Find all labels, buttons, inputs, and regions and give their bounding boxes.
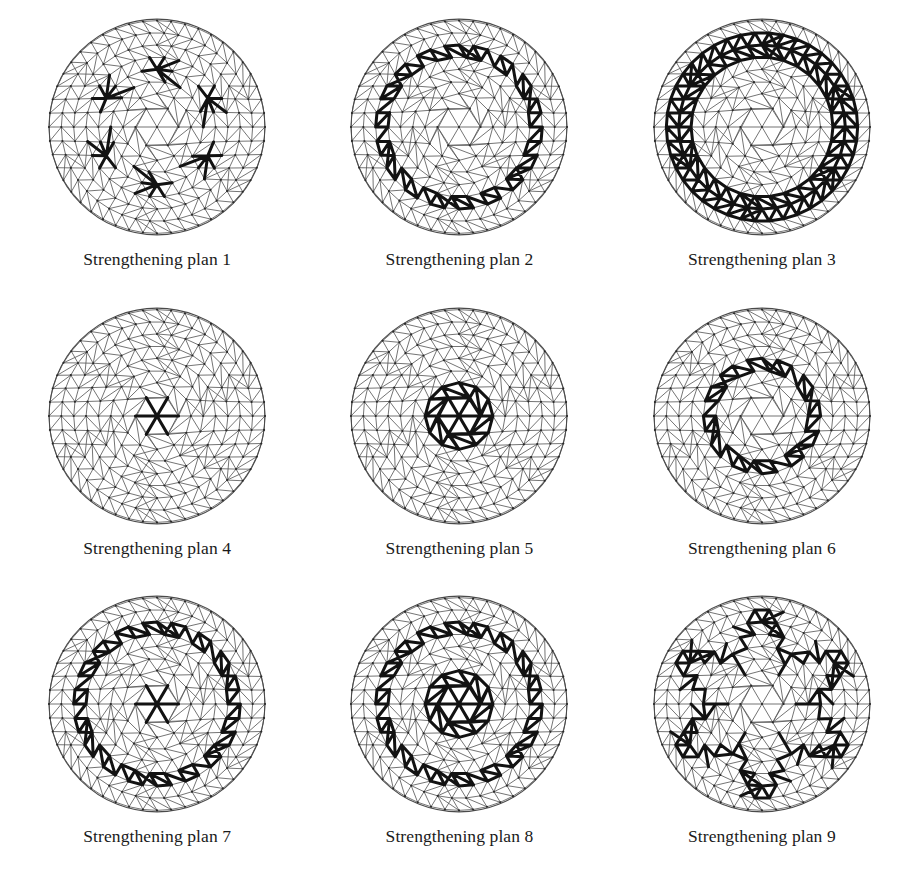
plan-diagram-5 [339, 297, 579, 535]
plan-diagram-2 [339, 8, 579, 246]
plan-diagram-9 [642, 585, 882, 823]
plan-diagram-6 [642, 297, 882, 535]
plan-caption-4: Strengthening plan 4 [83, 538, 231, 559]
plan-caption-3: Strengthening plan 3 [688, 249, 836, 270]
plan-caption-8: Strengthening plan 8 [386, 826, 534, 847]
plan-caption-5: Strengthening plan 5 [386, 538, 534, 559]
plan-panel-9: Strengthening plan 9 [611, 585, 913, 874]
strengthening-plans-figure: Strengthening plan 1 Strengthening plan … [0, 0, 919, 878]
plan-diagram-1 [37, 8, 277, 246]
plan-caption-2: Strengthening plan 2 [386, 249, 534, 270]
plan-diagram-3 [642, 8, 882, 246]
plan-diagram-7 [37, 585, 277, 823]
plan-panel-2: Strengthening plan 2 [308, 8, 610, 297]
plan-panel-7: Strengthening plan 7 [6, 585, 308, 874]
plan-panel-1: Strengthening plan 1 [6, 8, 308, 297]
plan-panel-8: Strengthening plan 8 [308, 585, 610, 874]
plan-panel-4: Strengthening plan 4 [6, 297, 308, 586]
plan-diagram-8 [339, 585, 579, 823]
plan-diagram-4 [37, 297, 277, 535]
plan-caption-1: Strengthening plan 1 [83, 249, 231, 270]
plan-caption-7: Strengthening plan 7 [83, 826, 231, 847]
plan-panel-3: Strengthening plan 3 [611, 8, 913, 297]
mesh-reinforced-edges [136, 397, 179, 434]
plan-caption-6: Strengthening plan 6 [688, 538, 836, 559]
plan-caption-9: Strengthening plan 9 [688, 826, 836, 847]
mesh-reinforced-edges [426, 382, 494, 449]
plan-panel-5: Strengthening plan 5 [308, 297, 610, 586]
plan-panel-6: Strengthening plan 6 [611, 297, 913, 586]
